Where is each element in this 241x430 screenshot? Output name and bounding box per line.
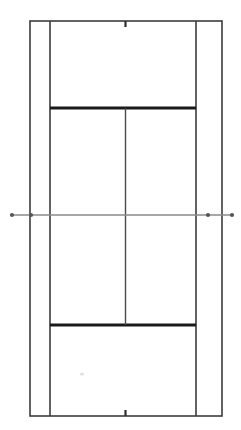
court-smudge-mark <box>80 372 84 375</box>
net-post-inner-left <box>29 213 33 217</box>
net-post-outer-right <box>230 213 234 217</box>
net-post-inner-right <box>206 213 210 217</box>
court-svg-canvas <box>0 0 241 430</box>
tennis-court-diagram <box>0 0 241 430</box>
net-post-outer-left <box>10 213 14 217</box>
